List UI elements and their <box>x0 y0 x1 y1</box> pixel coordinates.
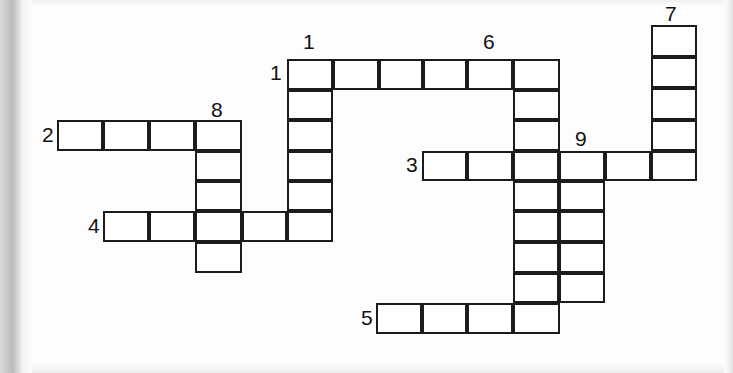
cell-r4c3[interactable] <box>195 151 242 181</box>
cell-r3c2[interactable] <box>149 120 195 151</box>
cell-r6c10[interactable] <box>513 211 559 242</box>
cell-r5c3[interactable] <box>195 181 242 211</box>
clue-number-4-across: 4 <box>88 215 100 236</box>
clue-number-6-down: 6 <box>483 31 495 52</box>
cell-r9c7[interactable] <box>376 303 422 334</box>
cell-r6c5[interactable] <box>287 211 333 242</box>
cell-r3c1[interactable] <box>103 120 149 151</box>
clue-number-1-across: 1 <box>270 62 282 83</box>
cell-r4c12[interactable] <box>605 151 651 181</box>
cell-r1c13[interactable] <box>651 57 697 88</box>
cell-r4c5[interactable] <box>287 151 333 181</box>
cell-r3c13[interactable] <box>651 120 697 151</box>
scanned-page: 1234516789 <box>0 0 733 373</box>
cell-r1c10[interactable] <box>513 59 560 90</box>
cell-r6c4[interactable] <box>242 211 287 242</box>
cell-r4c9[interactable] <box>467 151 513 181</box>
cell-r4c13[interactable] <box>651 151 697 181</box>
cell-r6c1[interactable] <box>103 211 149 242</box>
cell-r7c11[interactable] <box>559 242 605 273</box>
cell-r8c10[interactable] <box>513 273 559 303</box>
clue-number-2-across: 2 <box>42 124 54 145</box>
cell-r4c8[interactable] <box>422 151 467 181</box>
cell-r1c6[interactable] <box>333 59 379 90</box>
cell-r2c10[interactable] <box>513 90 560 120</box>
clue-number-3-across: 3 <box>406 154 418 175</box>
clue-number-5-across: 5 <box>361 307 373 328</box>
cell-r8c11[interactable] <box>559 273 605 303</box>
cell-r9c8[interactable] <box>422 303 467 334</box>
cell-r1c9[interactable] <box>467 59 513 90</box>
cell-r3c3[interactable] <box>195 120 242 151</box>
cell-r1c5[interactable] <box>287 59 333 90</box>
cell-r6c2[interactable] <box>149 211 195 242</box>
cell-r5c11[interactable] <box>559 181 605 211</box>
cell-r0c13[interactable] <box>651 25 697 57</box>
cell-r3c10[interactable] <box>513 120 560 151</box>
cell-r1c8[interactable] <box>423 59 467 90</box>
cell-r7c3[interactable] <box>195 242 242 273</box>
cell-r9c9[interactable] <box>467 303 513 334</box>
cell-r4c11[interactable] <box>559 151 605 181</box>
cell-r4c10[interactable] <box>513 151 559 181</box>
cell-r3c0[interactable] <box>57 120 103 151</box>
crossword-grid[interactable]: 1234516789 <box>0 0 733 373</box>
cell-r3c5[interactable] <box>287 120 333 151</box>
cell-r6c11[interactable] <box>559 211 605 242</box>
cell-r2c13[interactable] <box>651 88 697 120</box>
cell-r6c3[interactable] <box>195 211 242 242</box>
clue-number-8-down: 8 <box>211 99 223 120</box>
cell-r5c10[interactable] <box>513 181 559 211</box>
clue-number-1-down: 1 <box>303 31 315 52</box>
clue-number-7-down: 7 <box>665 3 677 24</box>
cell-r7c10[interactable] <box>513 242 559 273</box>
cell-r9c10[interactable] <box>513 303 560 334</box>
clue-number-9-down: 9 <box>575 128 587 149</box>
cell-r1c7[interactable] <box>379 59 423 90</box>
cell-r5c5[interactable] <box>287 181 333 211</box>
cell-r2c5[interactable] <box>287 90 333 120</box>
